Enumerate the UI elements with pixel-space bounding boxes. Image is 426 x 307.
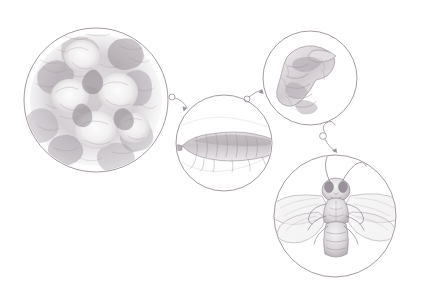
wasp-thorax: [324, 198, 349, 225]
stage-vignette-adult: Adult: [270, 154, 406, 277]
stage-vignette-eggs: Eggs: [24, 28, 169, 173]
larva-artwork: [174, 95, 290, 192]
arrow-larva-to-pupa: [244, 89, 264, 102]
stage-vignette-larva: Larva: [174, 95, 290, 192]
lifecycle-figure: Eggs: [0, 0, 426, 307]
arrow-eggs-to-larva: [169, 94, 187, 111]
arrow-pupa-to-adult: [320, 121, 337, 153]
lifecycle-diagram-canvas: Eggs: [0, 0, 426, 307]
stage-vignette-pupa: Pupa: [263, 31, 357, 125]
